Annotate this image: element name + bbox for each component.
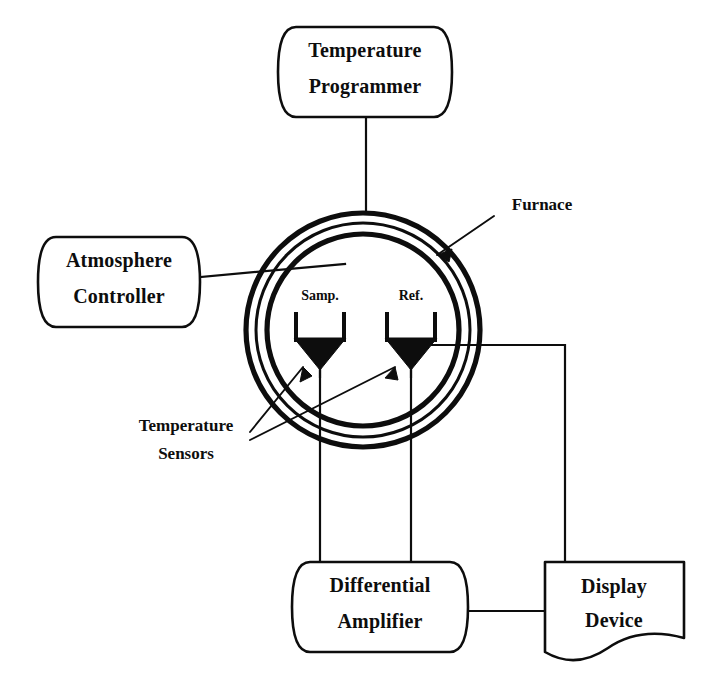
furnace-callout: Furnace (437, 195, 573, 262)
temperature-sensors-label-line1: Temperature (139, 416, 234, 435)
furnace-leader-line (437, 216, 494, 255)
diagram-canvas: Samp. Ref. Furnace Temperature Sensors (0, 0, 702, 678)
atmosphere-controller-label-line2: Controller (73, 285, 165, 307)
temperature-sensors-label-line2: Sensors (158, 444, 214, 463)
sample-crucible-assembly[interactable]: Samp. (294, 288, 346, 378)
reference-crucible-assembly[interactable]: Ref. (385, 288, 437, 378)
sample-temperature-sensor (294, 338, 346, 370)
connection-lines (200, 118, 565, 611)
furnace-label: Furnace (512, 195, 573, 214)
reference-crucible-label: Ref. (399, 288, 424, 303)
block-atmosphere-controller[interactable]: Atmosphere Controller (38, 237, 200, 327)
sample-crucible-wall (296, 312, 344, 340)
furnace-assembly[interactable] (246, 213, 480, 447)
furnace-outer-ring (246, 213, 480, 447)
block-display-device[interactable]: Display Device (545, 562, 684, 660)
temperature-programmer-label-line1: Temperature (308, 39, 421, 62)
line-furnace-to-display (432, 345, 565, 562)
differential-amplifier-label-line1: Differential (330, 574, 431, 596)
reference-temperature-sensor (385, 338, 437, 370)
differential-amplifier-label-line2: Amplifier (337, 610, 422, 633)
block-temperature-programmer[interactable]: Temperature Programmer (278, 27, 452, 117)
block-differential-amplifier[interactable]: Differential Amplifier (292, 562, 468, 652)
reference-crucible-wall (387, 312, 435, 340)
display-device-label-line1: Display (581, 575, 647, 598)
temperature-programmer-label-line2: Programmer (309, 75, 422, 98)
sample-crucible-label: Samp. (301, 288, 339, 303)
atmosphere-controller-label-line1: Atmosphere (66, 249, 172, 272)
display-device-label-line2: Device (585, 609, 643, 631)
schematic-svg: Samp. Ref. Furnace Temperature Sensors (0, 0, 702, 678)
